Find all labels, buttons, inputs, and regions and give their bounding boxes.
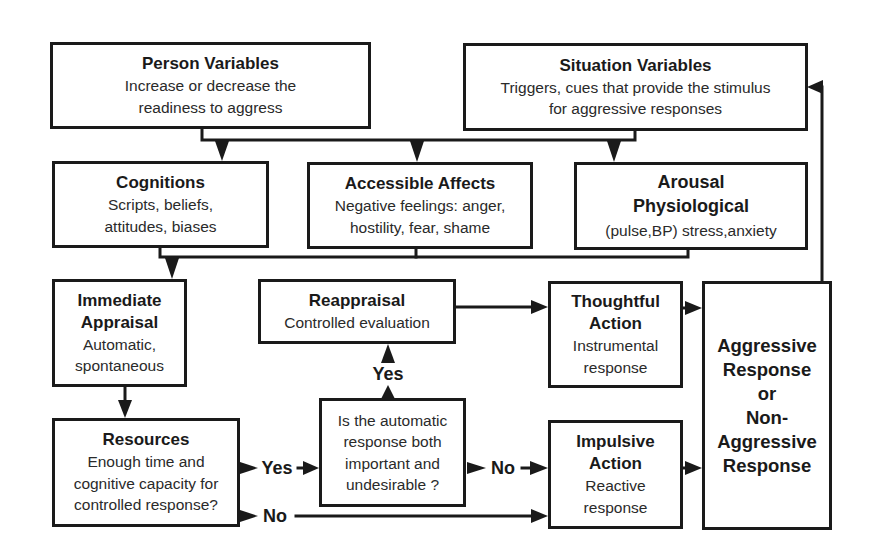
thoughtful-action-text: Instrumental [573,335,658,357]
decision-question-text: important and [345,453,440,475]
arrow-up-from-decision-icon [381,385,395,399]
person-variables-box: Person Variables Increase or decrease th… [50,42,371,129]
accessible-affects-box: Accessible Affects Negative feelings: an… [307,162,533,249]
resources-text: cognitive capacity for [74,473,219,495]
cognitions-box: Cognitions Scripts, beliefs, attitudes, … [52,161,269,248]
decision-question-box: Is the automatic response both important… [319,398,466,507]
reappraisal-text: Controlled evaluation [284,312,430,334]
resources-text: controlled response? [74,494,218,516]
no-label-decision-to-impulsive: No [486,457,520,479]
thoughtful-action-title: Action [589,313,642,335]
arrow-to-arousal-icon [607,141,621,162]
person-variables-title: Person Variables [142,53,279,75]
aggressive-response-title: or [758,382,777,406]
accessible-affects-text: hostility, fear, shame [350,217,490,239]
resources-box: Resources Enough time and cognitive capa… [52,418,240,527]
accessible-affects-text: Negative feelings: anger, [335,195,506,217]
aggressive-response-title: Response [723,358,811,382]
person-variables-text: readiness to aggress [139,97,283,119]
no-label-resources-to-impulsive: No [258,505,292,527]
aggressive-response-title: Aggressive [717,430,817,454]
thoughtful-action-text: response [584,357,648,379]
arrow-decision-no-icon [467,462,486,474]
immediate-appraisal-box: Immediate Appraisal Automatic, spontaneo… [52,279,187,387]
feedback-loop-line [820,87,822,281]
situation-variables-title: Situation Variables [559,55,711,77]
situation-variables-text: Triggers, cues that provide the stimulus [501,77,771,99]
impulsive-action-title: Impulsive [576,431,654,453]
impulsive-action-text: Reactive [585,475,645,497]
aggressive-response-title: Response [723,454,811,478]
decision-question-text: Is the automatic [338,410,447,432]
arrow-resources-no-icon [240,510,258,522]
arrow-to-cognitions-icon [215,141,229,161]
arrow-impulsive-to-aggressive-icon [685,461,702,475]
situation-variables-text: for aggressive responses [549,98,722,120]
arousal-physiological-box: Arousal Physiological (pulse,BP) stress,… [574,162,808,250]
cognitions-title: Cognitions [116,172,205,194]
aggressive-response-box: Aggressive Response or Non- Aggressive R… [702,281,832,530]
arrow-no-to-impulsive-icon [530,461,548,475]
aggressive-response-title: Non- [746,406,788,430]
yes-label-decision-to-reappraisal: Yes [368,363,408,385]
decision-question-text: response both [343,431,441,453]
situation-variables-box: Situation Variables Triggers, cues that … [463,43,808,131]
immediate-appraisal-text: spontaneous [75,355,164,377]
cognitions-text: attitudes, biases [104,216,216,238]
yes-label-resources-to-decision: Yes [257,457,297,479]
arrow-resources-yes-icon [240,462,258,474]
aggressive-response-title: Aggressive [717,334,817,358]
resources-title: Resources [103,429,190,451]
immediate-appraisal-title: Appraisal [81,312,158,334]
decision-question-text: undesirable ? [346,474,439,496]
reappraisal-box: Reappraisal Controlled evaluation [258,279,456,344]
person-variables-text: Increase or decrease the [125,75,296,97]
resources-text: Enough time and [87,451,204,473]
arrow-no-line-to-impulsive-icon [531,509,548,523]
accessible-affects-title: Accessible Affects [345,173,496,195]
immediate-appraisal-title: Immediate [77,290,161,312]
impulsive-action-text: response [584,497,648,519]
arrow-feedback-to-situation-icon [807,80,823,94]
arrow-thoughtful-to-aggressive-icon [685,301,702,315]
arrow-to-resources-icon [118,400,132,418]
arrow-yes-to-decision-icon [303,461,319,475]
arousal-title: Arousal [657,170,724,194]
arrow-up-to-reappraisal-icon [381,344,395,363]
impulsive-action-box: Impulsive Action Reactive response [548,420,683,529]
arrow-to-thoughtful-icon [531,300,548,314]
arousal-text: (pulse,BP) stress,anxiety [605,220,776,242]
cognitions-text: Scripts, beliefs, [108,194,213,216]
reappraisal-title: Reappraisal [309,290,405,312]
arrow-to-affects-icon [410,141,424,162]
arrow-to-immediate-appraisal-icon [165,258,179,279]
thoughtful-action-box: Thoughtful Action Instrumental response [548,281,683,388]
arousal-title: Physiological [633,194,749,218]
immediate-appraisal-text: Automatic, [83,334,156,356]
thoughtful-action-title: Thoughtful [571,291,660,313]
impulsive-action-title: Action [589,453,642,475]
